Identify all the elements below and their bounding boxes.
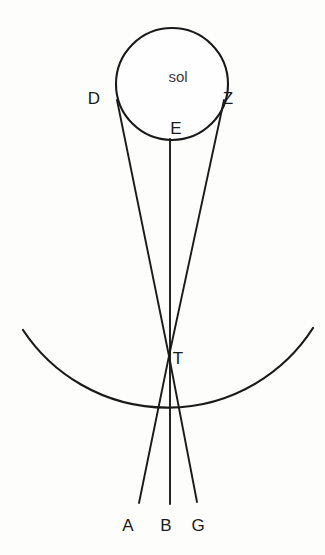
sun-label: sol [168,68,187,85]
point-label-E: E [170,119,181,138]
diagram-root: sol D Z E T A B G [0,0,325,555]
point-label-D: D [88,89,100,108]
point-label-G: G [191,516,204,535]
point-label-Z: Z [223,89,233,108]
point-label-T: T [173,349,183,368]
point-label-A: A [122,516,134,535]
point-label-B: B [160,516,171,535]
solar-eclipse-geometry-diagram: sol D Z E T A B G [0,0,325,555]
